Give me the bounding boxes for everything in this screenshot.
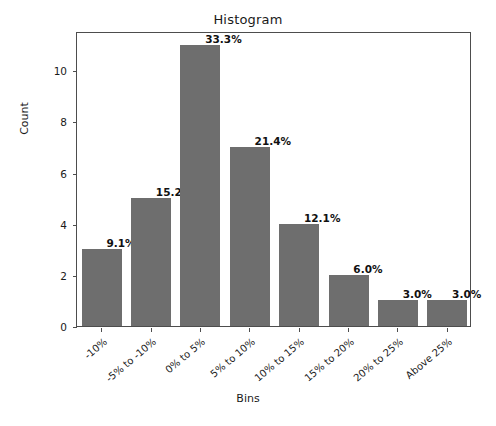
x-tick-label-text: -10% xyxy=(82,336,109,361)
y-tick-label: 4 xyxy=(60,219,67,231)
x-tick-mark xyxy=(397,328,398,332)
bar-value-label: 3.0% xyxy=(452,288,481,300)
bar xyxy=(378,300,418,326)
y-tick-mark xyxy=(73,327,77,328)
chart-title: Histogram xyxy=(0,12,496,27)
x-tick-label-text: -5% to -10% xyxy=(104,336,158,384)
y-axis-label: Count xyxy=(18,59,31,179)
bar xyxy=(329,275,369,326)
x-tick-mark xyxy=(101,328,102,332)
bar-value-label: 6.0% xyxy=(353,263,382,275)
y-tick-label: 0 xyxy=(60,321,67,333)
y-tick-mark xyxy=(73,122,77,123)
x-tick-label-text: 10% to 15% xyxy=(253,336,307,384)
x-tick-mark xyxy=(447,328,448,332)
x-tick-label-text: 20% to 25% xyxy=(351,336,405,384)
y-tick-label: 10 xyxy=(54,65,67,77)
x-tick-label-text: Above 25% xyxy=(404,336,455,381)
x-tick-label-text: 15% to 20% xyxy=(302,336,356,384)
y-tick-mark xyxy=(73,225,77,226)
y-tick-mark xyxy=(73,174,77,175)
bar xyxy=(180,45,220,326)
bar xyxy=(279,224,319,326)
x-tick-mark xyxy=(299,328,300,332)
y-tick-label: 8 xyxy=(60,116,67,128)
bar-value-label: 12.1% xyxy=(304,212,340,224)
x-tick-label-text: 5% to 10% xyxy=(208,336,257,379)
bar xyxy=(82,249,122,326)
x-axis-label: Bins xyxy=(0,392,496,405)
x-tick-mark xyxy=(348,328,349,332)
plot-area: 0246810 -10%-5% to -10%0% to 5%5% to 10%… xyxy=(76,32,471,327)
y-tick-label: 6 xyxy=(60,168,67,180)
bar-value-label: 33.3% xyxy=(205,33,241,45)
bar xyxy=(131,198,171,326)
histogram-figure: Histogram Count 0246810 -10%-5% to -10%0… xyxy=(0,0,496,426)
bar xyxy=(230,147,270,326)
x-tick-mark xyxy=(151,328,152,332)
bar-value-label: 3.0% xyxy=(403,288,432,300)
y-tick-mark xyxy=(73,276,77,277)
bar-value-label: 21.4% xyxy=(255,135,291,147)
x-tick-mark xyxy=(249,328,250,332)
bar xyxy=(427,300,467,326)
x-tick-label-text: 0% to 5% xyxy=(164,336,208,375)
y-tick-label: 2 xyxy=(60,270,67,282)
x-tick-mark xyxy=(200,328,201,332)
y-tick-mark xyxy=(73,71,77,72)
